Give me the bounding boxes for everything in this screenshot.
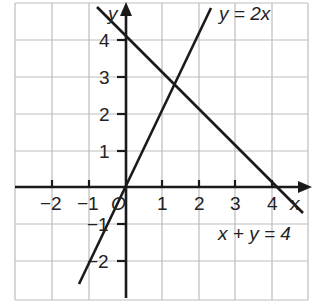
x-tick-label: 1 — [157, 193, 168, 214]
axes — [15, 2, 312, 298]
x-tick-label: 3 — [230, 193, 241, 214]
y-axis-label: y — [106, 3, 119, 24]
equation-label-x-plus-y-equals-4: x + y = 4 — [217, 223, 291, 244]
x-tick-label: 4 — [267, 193, 278, 214]
y-tick-label: −2 — [87, 251, 109, 272]
x-tick-label: −1 — [77, 193, 99, 214]
y-tick-label: 3 — [99, 67, 110, 88]
origin-label: O — [111, 193, 126, 214]
y-tick-label: 1 — [99, 141, 110, 162]
coordinate-graph: x y O −2 −1 1 2 3 4 4 3 2 1 −1 −2 y = 2x… — [0, 0, 317, 306]
y-tick-label: 2 — [99, 104, 110, 125]
y-axis-arrow-icon — [120, 2, 132, 16]
x-tick-label: 2 — [194, 193, 205, 214]
grid — [15, 3, 308, 300]
x-axis-arrow-icon — [298, 181, 312, 193]
y-tick-label: 4 — [99, 30, 110, 51]
x-axis-label: x — [289, 193, 301, 214]
equation-label-y-equals-2x: y = 2x — [217, 3, 272, 24]
y-tick-label: −1 — [87, 214, 109, 235]
x-tick-label: −2 — [40, 193, 62, 214]
